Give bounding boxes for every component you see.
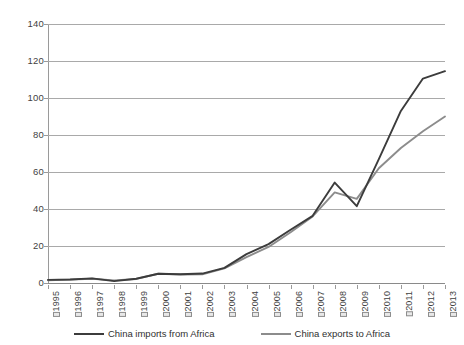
x-tick-mark-2002 [202, 285, 203, 289]
x-tick-label-1999: 1999 [140, 291, 149, 317]
missing-glyph-icon [296, 312, 303, 317]
missing-glyph-icon [229, 312, 236, 317]
x-tick-label-2001: 2001 [184, 291, 193, 317]
legend-item-imports[interactable]: China imports from Africa [74, 329, 215, 339]
x-tick-label-2009: 2009 [361, 291, 370, 317]
missing-glyph-icon [141, 312, 148, 317]
missing-glyph-icon [384, 312, 391, 317]
x-tick-mark-2008 [335, 285, 336, 289]
x-tick-mark-2013 [445, 285, 446, 289]
x-tick-label-2007: 2007 [317, 291, 326, 317]
x-tick-mark-2000 [158, 285, 159, 289]
x-tick-mark-1998 [114, 285, 115, 289]
y-tick-label-120: 120 [4, 56, 44, 66]
missing-glyph-icon [318, 312, 325, 317]
plot-area [48, 24, 445, 283]
legend-line-swatch [261, 333, 291, 335]
missing-glyph-icon [428, 312, 435, 317]
missing-glyph-icon [163, 312, 170, 317]
x-tick-mark-1996 [70, 285, 71, 289]
series-line-imports [48, 71, 445, 281]
x-tick-label-1997: 1997 [96, 291, 105, 317]
x-tick-label-1996: 1996 [74, 291, 83, 317]
missing-glyph-icon [53, 312, 60, 317]
y-tick-label-60: 60 [4, 167, 44, 177]
legend-label: China exports to Africa [295, 329, 391, 339]
series-layer [48, 24, 445, 283]
x-tick-label-2005: 2005 [273, 291, 282, 317]
x-tick-label-1998: 1998 [118, 291, 127, 317]
legend-item-exports[interactable]: China exports to Africa [261, 329, 391, 339]
missing-glyph-icon [207, 312, 214, 317]
x-tick-label-2006: 2006 [295, 291, 304, 317]
chart-legend: China imports from AfricaChina exports t… [0, 327, 464, 341]
x-tick-label-2013: 2013 [449, 291, 458, 317]
missing-glyph-icon [340, 312, 347, 317]
x-tick-mark-1995 [48, 285, 49, 289]
x-tick-mark-1997 [92, 285, 93, 289]
x-tick-mark-1999 [136, 285, 137, 289]
x-tick-label-2012: 2012 [427, 291, 436, 317]
y-tick-label-140: 140 [4, 19, 44, 29]
y-tick-label-80: 80 [4, 130, 44, 140]
missing-glyph-icon [97, 312, 104, 317]
y-tick-label-40: 40 [4, 204, 44, 214]
x-tick-mark-2012 [423, 285, 424, 289]
x-tick-mark-2003 [224, 285, 225, 289]
missing-glyph-icon [119, 312, 126, 317]
missing-glyph-icon [75, 312, 82, 317]
legend-label: China imports from Africa [108, 329, 215, 339]
missing-glyph-icon [274, 312, 281, 317]
x-axis: 1995199619971998199920002001200220032004… [48, 285, 445, 327]
missing-glyph-icon [362, 312, 369, 317]
x-tick-mark-2010 [379, 285, 380, 289]
y-tick-label-0: 0 [4, 278, 44, 288]
x-tick-label-2011: 2011 [405, 291, 414, 316]
line-chart: 020406080100120140 199519961997199819992… [0, 0, 464, 345]
x-tick-mark-2004 [247, 285, 248, 289]
x-tick-mark-2009 [357, 285, 358, 289]
missing-glyph-icon [252, 312, 259, 317]
x-tick-label-2003: 2003 [228, 291, 237, 317]
x-tick-label-2004: 2004 [251, 291, 260, 317]
legend-line-swatch [74, 333, 104, 335]
x-tick-mark-2005 [269, 285, 270, 289]
gridline-0 [48, 283, 445, 284]
x-tick-mark-2007 [313, 285, 314, 289]
x-tick-label-2008: 2008 [339, 291, 348, 317]
y-axis: 020406080100120140 [0, 0, 44, 345]
x-tick-label-1995: 1995 [52, 291, 61, 317]
y-tick-label-100: 100 [4, 93, 44, 103]
x-tick-mark-2001 [180, 285, 181, 289]
y-tick-label-20: 20 [4, 241, 44, 251]
missing-glyph-icon [406, 311, 413, 316]
x-tick-label-2002: 2002 [206, 291, 215, 317]
x-tick-mark-2011 [401, 285, 402, 289]
x-tick-label-2010: 2010 [383, 291, 392, 317]
missing-glyph-icon [185, 312, 192, 317]
missing-glyph-icon [450, 312, 457, 317]
series-line-exports [48, 117, 445, 281]
x-tick-label-2000: 2000 [162, 291, 171, 317]
x-tick-mark-2006 [291, 285, 292, 289]
